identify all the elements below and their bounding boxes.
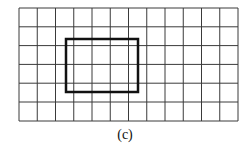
highlight-rectangle	[66, 39, 138, 92]
figure-caption: (c)	[0, 127, 250, 143]
grid-lines	[19, 8, 238, 121]
grid-figure: (c)	[0, 0, 250, 149]
